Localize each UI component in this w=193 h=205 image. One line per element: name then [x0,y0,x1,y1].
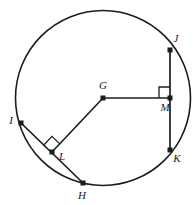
vertex-dot-j [168,48,173,53]
point-label-i: I [8,114,14,126]
point-label-k: K [172,152,181,164]
point-label-g: G [99,79,107,91]
vertex-dot-k [168,148,173,153]
vertex-dot-h [81,181,86,186]
vertex-dot-i [19,121,24,126]
point-label-l: L [58,150,65,162]
right-angle-at-l-icon [44,136,60,144]
vertex-dot-l [50,150,55,155]
vertex-dot-g [101,96,106,101]
point-label-m: M [159,101,170,113]
geometry-canvas: G J M K I L H [0,0,193,205]
point-label-j: J [174,32,180,44]
geometry-diagram: G J M K I L H [0,0,193,205]
vertex-dot-m [168,96,173,101]
point-label-h: H [77,189,87,201]
